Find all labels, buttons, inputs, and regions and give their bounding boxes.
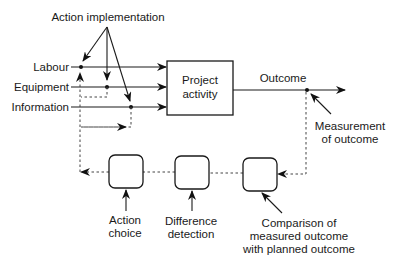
comparison-box: [243, 158, 277, 191]
action-implementation-arrows: [83, 27, 130, 101]
difference-detection-box: [175, 156, 209, 189]
control-loop-diagram: Action implementation Labour Equipment I…: [0, 0, 395, 267]
action-choice-label-line1: Action: [109, 214, 141, 226]
comparison-label-line2: measured outcome: [250, 230, 348, 242]
comparison-label-line3: with planned outcome: [242, 243, 355, 255]
input-label-equipment: Equipment: [14, 81, 70, 93]
project-activity-label-line1: Project: [182, 74, 219, 86]
input-arrows: [71, 67, 166, 107]
input-label-labour: Labour: [33, 61, 69, 73]
comparison-arrow: [262, 193, 282, 213]
outcome-label: Outcome: [260, 72, 307, 84]
action-choice-label-line2: choice: [108, 227, 141, 239]
difference-detection-label-line2: detection: [168, 228, 215, 240]
input-label-information: Information: [11, 101, 69, 113]
difference-detection-label-line1: Difference: [165, 215, 217, 227]
comparison-label-line1: Comparison of: [262, 217, 338, 229]
action-choice-box: [109, 155, 143, 188]
action-implementation-label: Action implementation: [51, 11, 164, 23]
measurement-point: [305, 88, 309, 92]
project-activity-label-line2: activity: [182, 88, 217, 100]
measurement-label-line1: Measurement: [315, 120, 386, 132]
measurement-label-line2: of outcome: [322, 133, 379, 145]
labour-control-point: [79, 65, 83, 69]
measurement-arrow: [311, 94, 331, 114]
